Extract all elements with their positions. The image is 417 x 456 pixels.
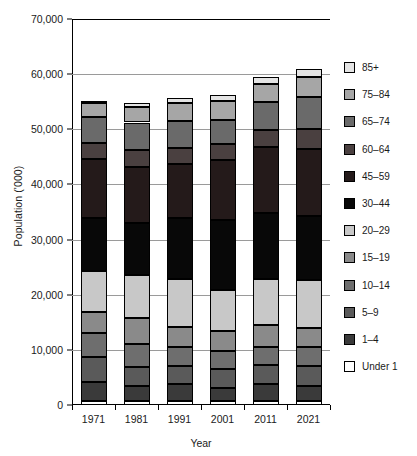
legend-label: 10–14 (362, 280, 390, 291)
legend-label: 85+ (362, 62, 379, 73)
legend-item[interactable]: 85+ (344, 54, 414, 81)
legend-item[interactable]: 1–4 (344, 326, 414, 353)
bar-1991[interactable] (167, 19, 193, 405)
bar-segment (81, 271, 107, 312)
bar-segment (296, 69, 322, 77)
bar-segment (167, 164, 193, 219)
stacked-bar-chart: Population ('000) 010,00020,00030,00040,… (0, 0, 417, 456)
bar-segment (81, 159, 107, 217)
gridline (72, 295, 330, 296)
bar-segment (81, 401, 107, 405)
legend-item[interactable]: 5–9 (344, 299, 414, 326)
x-tick-mark (115, 405, 116, 410)
bar-2011[interactable] (253, 19, 279, 405)
bar-segment (81, 218, 107, 271)
legend-swatch-icon (344, 62, 355, 73)
bar-segment (296, 366, 322, 386)
legend-swatch-icon (344, 307, 355, 318)
bar-segment (167, 148, 193, 163)
legend-item[interactable]: 30–44 (344, 190, 414, 217)
bar-segment (253, 384, 279, 401)
x-tick-mark (244, 405, 245, 410)
bar-segment (296, 149, 322, 216)
legend-item[interactable]: Under 1 (344, 353, 414, 380)
bar-segment (253, 147, 279, 213)
bar-segment (81, 117, 107, 143)
y-tick-label: 70,000 (31, 13, 72, 25)
bar-segment (124, 167, 150, 223)
bar-segment (210, 95, 236, 101)
gridline (72, 240, 330, 241)
bar-segment (167, 98, 193, 104)
legend-label: 60–64 (362, 144, 390, 155)
legend-swatch-icon (344, 116, 355, 127)
bar-segment (296, 386, 322, 401)
legend-label: 30–44 (362, 198, 390, 209)
bar-segment (210, 101, 236, 120)
legend-label: 5–9 (362, 307, 379, 318)
bar-segment (253, 213, 279, 279)
bar-segment (253, 84, 279, 102)
legend-swatch-icon (344, 198, 355, 209)
bar-segment (124, 318, 150, 343)
legend-item[interactable]: 45–59 (344, 163, 414, 190)
x-tick-label-2001: 2001 (211, 413, 234, 425)
legend-item[interactable]: 60–64 (344, 136, 414, 163)
bar-segment (167, 401, 193, 405)
bar-1981[interactable] (124, 19, 150, 405)
x-tick-label-2021: 2021 (297, 413, 320, 425)
bar-segment (81, 103, 107, 117)
bar-2021[interactable] (296, 19, 322, 405)
bar-segment (167, 366, 193, 384)
bar-1971[interactable] (81, 19, 107, 405)
bar-segment (167, 121, 193, 149)
gridline (72, 350, 330, 351)
bar-segment (210, 220, 236, 290)
bar-segment (124, 123, 150, 151)
legend-swatch-icon (344, 144, 355, 155)
bar-segment (210, 331, 236, 351)
legend-item[interactable]: 15–19 (344, 244, 414, 271)
bar-segment (81, 357, 107, 382)
y-tick-label: 40,000 (31, 178, 72, 190)
y-tick-label: 60,000 (31, 68, 72, 80)
legend-swatch-icon (344, 89, 355, 100)
bar-segment (296, 328, 322, 347)
bar-segment (253, 77, 279, 84)
y-tick-label: 30,000 (31, 234, 72, 246)
bar-2001[interactable] (210, 19, 236, 405)
bar-segment (210, 369, 236, 387)
legend-label: 65–74 (362, 116, 390, 127)
bar-segment (210, 290, 236, 330)
legend-item[interactable]: 75–84 (344, 81, 414, 108)
bar-segment (253, 130, 279, 147)
bar-segment (167, 103, 193, 120)
bar-segment (124, 386, 150, 401)
bar-segment (210, 144, 236, 159)
y-tick-label: 0 (57, 399, 72, 411)
bar-segment (296, 401, 322, 405)
bar-segment (296, 77, 322, 97)
legend-label: 20–29 (362, 225, 390, 236)
bar-segment (81, 312, 107, 333)
legend-item[interactable]: 65–74 (344, 108, 414, 135)
bar-segment (124, 367, 150, 386)
bar-segment (296, 280, 322, 327)
legend-item[interactable]: 20–29 (344, 217, 414, 244)
y-tick-label: 10,000 (31, 344, 72, 356)
legend-swatch-icon (344, 171, 355, 182)
bar-segment (124, 275, 150, 319)
y-tick-label: 20,000 (31, 289, 72, 301)
plot-top-border (72, 19, 330, 20)
bar-segment (210, 401, 236, 405)
bar-segment (167, 347, 193, 366)
bar-segment (167, 218, 193, 279)
bar-segment (296, 347, 322, 367)
bar-segment (124, 401, 150, 405)
y-axis-title: Population ('000) (12, 146, 24, 266)
x-tick-label-1971: 1971 (82, 413, 105, 425)
x-tick-label-2011: 2011 (254, 413, 277, 425)
x-tick-label-1981: 1981 (125, 413, 148, 425)
legend-item[interactable]: 10–14 (344, 272, 414, 299)
bar-segment (124, 344, 150, 368)
